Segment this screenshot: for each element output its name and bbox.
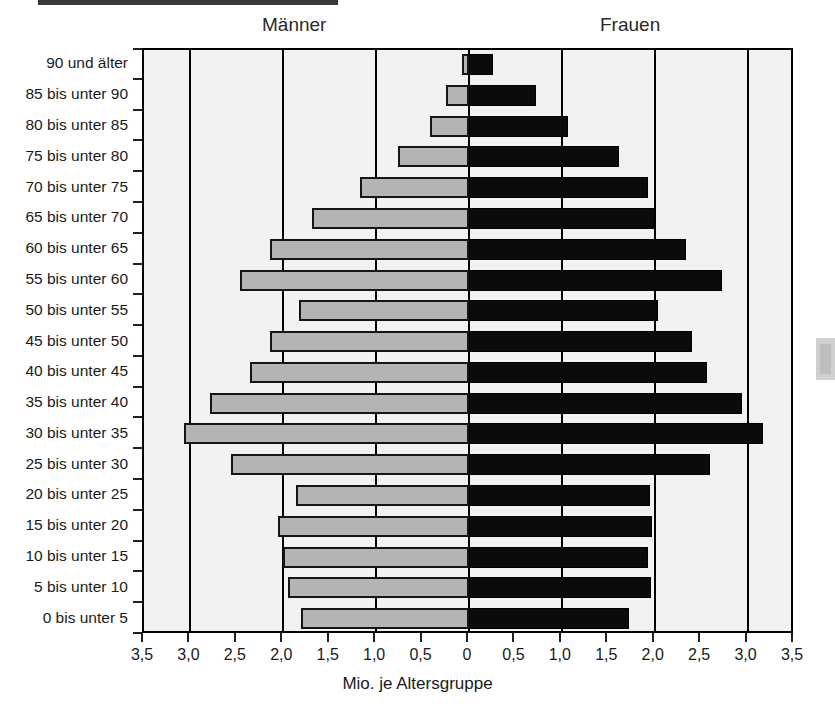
bar-female	[469, 208, 655, 229]
bar-female	[469, 85, 536, 106]
value-tick-label: 1,5	[317, 645, 339, 664]
axis-tick	[133, 447, 142, 449]
age-group-label: 30 bis unter 35	[25, 424, 128, 442]
axis-tick	[133, 509, 142, 511]
axis-tick	[133, 139, 142, 141]
bar-male	[288, 577, 469, 598]
age-group-axis: 90 und älter85 bis unter 9080 bis unter …	[0, 48, 142, 633]
bar-female	[469, 516, 652, 537]
bar-row	[144, 204, 791, 235]
axis-tick	[133, 201, 142, 203]
bar-row	[144, 573, 791, 604]
bar-row	[144, 235, 791, 266]
bar-female	[469, 423, 763, 444]
axis-tick	[420, 633, 422, 642]
bar-male	[446, 85, 469, 106]
bar-male	[210, 393, 469, 414]
bar-row	[144, 389, 791, 420]
bar-row	[144, 419, 791, 450]
axis-tick	[133, 478, 142, 480]
bar-female	[469, 116, 568, 137]
axis-tick	[512, 633, 514, 642]
axis-tick	[133, 48, 142, 50]
axis-tick	[133, 78, 142, 80]
female-column-header: Frauen	[600, 12, 660, 38]
axis-tick	[605, 633, 607, 642]
age-group-label: 15 bis unter 20	[25, 516, 128, 534]
bar-male	[299, 300, 469, 321]
axis-tick	[791, 633, 793, 642]
population-pyramid-plot	[142, 48, 793, 633]
axis-tick	[141, 633, 143, 642]
value-tick-label: 3,5	[781, 645, 803, 664]
bar-row	[144, 358, 791, 389]
male-column-header: Männer	[262, 12, 326, 38]
age-group-label: 60 bis unter 65	[25, 239, 128, 257]
bar-male	[430, 116, 469, 137]
age-group-label: 85 bis unter 90	[25, 85, 128, 103]
age-group-label: 70 bis unter 75	[25, 178, 128, 196]
gender-header-row: Männer Frauen	[0, 12, 835, 40]
bar-rows	[144, 50, 791, 631]
bar-female	[469, 393, 742, 414]
bar-row	[144, 50, 791, 81]
value-tick-label: 2,5	[688, 645, 710, 664]
age-group-label: 35 bis unter 40	[25, 393, 128, 411]
bar-female	[469, 547, 648, 568]
axis-tick	[133, 601, 142, 603]
bar-female	[469, 239, 686, 260]
axis-tick	[133, 170, 142, 172]
bar-male	[270, 331, 469, 352]
bar-row	[144, 112, 791, 143]
axis-tick	[133, 416, 142, 418]
bar-male	[283, 547, 469, 568]
bar-row	[144, 543, 791, 574]
axis-tick	[133, 540, 142, 542]
bar-male	[231, 454, 469, 475]
age-group-label: 80 bis unter 85	[25, 116, 128, 134]
bar-male	[301, 608, 469, 629]
axis-tick	[187, 633, 189, 642]
age-group-label: 40 bis unter 45	[25, 362, 128, 380]
age-group-label: 75 bis unter 80	[25, 147, 128, 165]
bar-male	[360, 177, 469, 198]
axis-tick	[133, 232, 142, 234]
bar-row	[144, 450, 791, 481]
age-group-label: 5 bis unter 10	[34, 578, 128, 596]
bar-male	[296, 485, 469, 506]
age-group-label: 65 bis unter 70	[25, 208, 128, 226]
bar-male	[240, 270, 469, 291]
axis-tick	[133, 293, 142, 295]
age-group-label: 45 bis unter 50	[25, 332, 128, 350]
axis-tick	[466, 633, 468, 642]
age-group-label: 10 bis unter 15	[25, 547, 128, 565]
bar-row	[144, 266, 791, 297]
axis-title: Mio. je Altersgruppe	[0, 674, 835, 694]
value-tick-label: 3,0	[177, 645, 199, 664]
bar-male	[398, 146, 470, 167]
bar-female	[469, 146, 619, 167]
bar-male	[184, 423, 469, 444]
bar-female	[469, 300, 658, 321]
bar-female	[469, 454, 710, 475]
value-tick-label: 0	[463, 645, 472, 664]
axis-tick	[234, 633, 236, 642]
bar-row	[144, 142, 791, 173]
bar-male	[462, 54, 469, 75]
value-tick-label: 2,0	[270, 645, 292, 664]
axis-tick	[373, 633, 375, 642]
scan-artifact-top-bar	[38, 0, 338, 5]
bar-male	[278, 516, 469, 537]
bar-row	[144, 81, 791, 112]
bar-female	[469, 485, 650, 506]
axis-tick	[559, 633, 561, 642]
axis-tick	[652, 633, 654, 642]
value-axis: Mio. je Altersgruppe 3,53,02,52,01,51,00…	[0, 633, 835, 713]
bar-female	[469, 54, 493, 75]
value-tick-label: 2,0	[642, 645, 664, 664]
bar-female	[469, 608, 629, 629]
value-tick-label: 1,5	[595, 645, 617, 664]
bar-row	[144, 481, 791, 512]
bar-female	[469, 270, 722, 291]
scan-artifact-right-margin-inner	[820, 344, 831, 374]
